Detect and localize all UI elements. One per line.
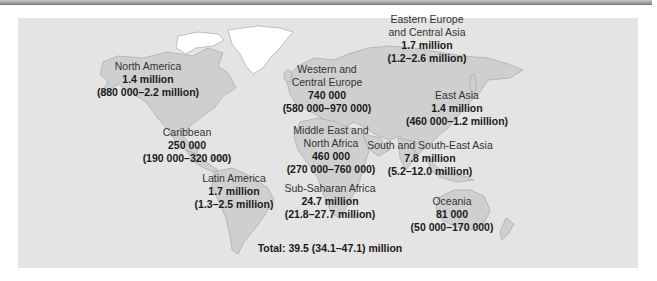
region-name: Sub-Saharan Africa <box>284 182 375 195</box>
region-range: (1.3–2.5 million) <box>195 198 274 211</box>
region-label-eastern-europe-central-asia: Eastern Europe and Central Asia 1.7 mill… <box>388 13 467 65</box>
region-name: Caribbean <box>143 126 232 139</box>
world-map-panel: North America 1.4 million (880 000–2.2 m… <box>18 18 638 268</box>
region-estimate: 740 000 <box>283 89 372 102</box>
top-border-bar <box>0 0 652 5</box>
total-estimate: Total: 39.5 (34.1–47.1) million <box>258 242 403 254</box>
region-label-north-america: North America 1.4 million (880 000–2.2 m… <box>97 60 199 99</box>
region-range: (580 000–970 000) <box>283 102 372 115</box>
region-estimate: 1.7 million <box>195 185 274 198</box>
region-estimate: 1.7 million <box>388 39 467 52</box>
region-label-sub-saharan-africa: Sub-Saharan Africa 24.7 million (21.8–27… <box>284 182 375 221</box>
region-name: Middle East and <box>287 124 376 137</box>
region-range: (460 000–1.2 million) <box>406 115 508 128</box>
region-label-east-asia: East Asia 1.4 million (460 000–1.2 milli… <box>406 89 508 128</box>
region-label-oceania: Oceania 81 000 (50 000–170 000) <box>411 195 494 234</box>
region-name: East Asia <box>406 89 508 102</box>
region-estimate: 460 000 <box>287 150 376 163</box>
region-range: (21.8–27.7 million) <box>284 208 375 221</box>
region-estimate: 7.8 million <box>367 152 493 165</box>
region-label-western-central-europe: Western and Central Europe 740 000 (580 … <box>283 63 372 115</box>
region-name: North America <box>97 60 199 73</box>
new-zealand <box>500 218 514 240</box>
region-name: Western and <box>283 63 372 76</box>
region-label-latin-america: Latin America 1.7 million (1.3–2.5 milli… <box>195 172 274 211</box>
region-range: (1.2–2.6 million) <box>388 52 467 65</box>
region-range: (880 000–2.2 million) <box>97 86 199 99</box>
region-estimate: 24.7 million <box>284 195 375 208</box>
region-name: Oceania <box>411 195 494 208</box>
region-estimate: 250 000 <box>143 139 232 152</box>
region-name: Eastern Europe <box>388 13 467 26</box>
region-estimate: 1.4 million <box>406 102 508 115</box>
region-range: (5.2–12.0 million) <box>367 165 493 178</box>
region-name-line2: and Central Asia <box>388 26 467 39</box>
region-range: (190 000–320 000) <box>143 152 232 165</box>
region-name: South and South-East Asia <box>367 139 493 152</box>
region-range: (270 000–760 000) <box>287 163 376 176</box>
region-label-middle-east-north-africa: Middle East and North Africa 460 000 (27… <box>287 124 376 176</box>
region-estimate: 1.4 million <box>97 73 199 86</box>
region-name-line2: North Africa <box>287 137 376 150</box>
region-range: (50 000–170 000) <box>411 221 494 234</box>
region-name-line2: Central Europe <box>283 76 372 89</box>
region-estimate: 81 000 <box>411 208 494 221</box>
region-label-south-south-east-asia: South and South-East Asia 7.8 million (5… <box>367 139 493 178</box>
region-label-caribbean: Caribbean 250 000 (190 000–320 000) <box>143 126 232 165</box>
region-name: Latin America <box>195 172 274 185</box>
